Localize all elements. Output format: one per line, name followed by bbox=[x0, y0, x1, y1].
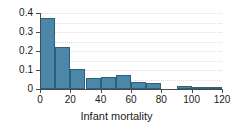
x-tick-mark bbox=[131, 89, 132, 93]
x-tick-mark bbox=[101, 89, 102, 93]
histogram-bar bbox=[131, 82, 146, 89]
y-tick-mark bbox=[36, 51, 40, 52]
x-tick-mark bbox=[192, 89, 193, 93]
gridline bbox=[40, 13, 222, 14]
histogram-bar bbox=[86, 78, 101, 89]
y-tick-label: 0.1 bbox=[0, 64, 33, 75]
y-tick-label: 0.2 bbox=[0, 45, 33, 56]
x-tick-mark bbox=[222, 89, 223, 93]
y-tick-label: 0 bbox=[0, 83, 33, 94]
plot-area bbox=[40, 13, 222, 89]
gridline bbox=[40, 42, 222, 43]
x-tick-label: 20 bbox=[55, 94, 85, 105]
x-tick-mark bbox=[70, 89, 71, 93]
x-tick-label: 80 bbox=[146, 94, 176, 105]
y-tick-label: 0.3 bbox=[0, 26, 33, 37]
histogram-bar bbox=[101, 77, 116, 89]
y-tick-mark bbox=[36, 32, 40, 33]
y-tick-mark bbox=[36, 70, 40, 71]
x-tick-label: 120 bbox=[207, 94, 233, 105]
histogram-bar bbox=[116, 75, 131, 89]
histogram-bar bbox=[40, 18, 55, 89]
x-axis-label: Infant mortality bbox=[0, 110, 233, 122]
histogram-bar bbox=[70, 69, 85, 89]
y-axis-line bbox=[40, 13, 41, 90]
y-tick-mark bbox=[36, 13, 40, 14]
x-tick-label: 60 bbox=[116, 94, 146, 105]
x-tick-mark bbox=[161, 89, 162, 93]
x-tick-label: 100 bbox=[177, 94, 207, 105]
x-tick-mark bbox=[40, 89, 41, 93]
gridline bbox=[40, 32, 222, 33]
x-tick-label: 0 bbox=[25, 94, 55, 105]
gridline bbox=[40, 23, 222, 24]
x-tick-label: 40 bbox=[86, 94, 116, 105]
y-tick-label: 0.4 bbox=[0, 7, 33, 18]
histogram-bar bbox=[55, 47, 70, 89]
histogram-figure: 00.10.20.30.4 020406080100120 Infant mor… bbox=[0, 0, 233, 134]
